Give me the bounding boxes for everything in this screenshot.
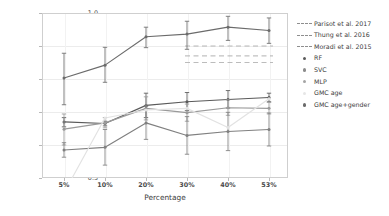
dot-key-icon [296, 57, 313, 60]
dot-key-icon [296, 68, 313, 71]
chart-legend: Parisot et al. 2017 Thung et al. 2016 Mo… [296, 18, 388, 111]
x-tick-label: 20% [126, 182, 166, 188]
x-tick-label: 5% [44, 182, 84, 188]
x-axis-label: Percentage [42, 193, 288, 202]
legend-item[interactable]: RF [296, 53, 388, 65]
legend-item-label: GMC age+gender [313, 102, 370, 108]
legend-item[interactable]: Thung et al. 2016 [296, 30, 388, 42]
chart-figure: AUC 1.0 0.9 0.8 0.7 0.6 0.5 5% 10% 20 [0, 0, 389, 216]
legend-item[interactable]: SVC [296, 64, 388, 76]
data-series [62, 106, 271, 165]
legend-item[interactable]: Parisot et al. 2017 [296, 18, 388, 30]
legend-item-label: Moradi et al. 2015 [313, 44, 371, 50]
x-tick-label: 40% [208, 182, 248, 188]
legend-item-label: GMC age [313, 90, 342, 96]
legend-item[interactable]: Moradi et al. 2015 [296, 41, 388, 53]
x-tick-label: 53% [249, 182, 289, 188]
legend-item-label: MLP [313, 79, 327, 85]
dot-key-icon [296, 80, 313, 83]
data-series [62, 16, 271, 104]
legend-item[interactable]: GMC age+gender [296, 99, 388, 111]
legend-item[interactable]: GMC age [296, 88, 388, 100]
x-tick-label: 30% [167, 182, 207, 188]
dot-key-icon [296, 103, 313, 106]
legend-item-label: Parisot et al. 2017 [313, 21, 371, 27]
dashed-line-key-icon [296, 23, 313, 24]
data-series [63, 97, 271, 178]
x-tick-label: 10% [85, 182, 125, 188]
legend-item[interactable]: MLP [296, 76, 388, 88]
legend-item-label: RF [313, 55, 322, 61]
legend-item-label: SVC [313, 67, 327, 73]
dashed-line-key-icon [296, 35, 313, 36]
series-plot [42, 13, 288, 178]
dot-key-icon [296, 92, 313, 95]
legend-item-label: Thung et al. 2016 [313, 32, 370, 38]
dashed-line-key-icon [296, 46, 313, 47]
